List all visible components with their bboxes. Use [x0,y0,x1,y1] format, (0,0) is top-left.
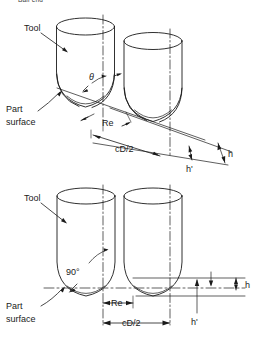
tool-right-back-arc-front [134,286,172,294]
part-surface-label-front-line1: Part [6,301,23,311]
h-inner-arrowhead-front [209,281,213,287]
angle90-arrowhead-front [104,248,109,251]
tool-right-wall-right [160,41,183,122]
re-arrowhead-right-front [126,301,133,305]
tool-right-body-front [124,196,182,296]
tool-left-body-front [57,196,115,296]
isometric-view [38,15,232,165]
tool-right-top-ellipse [124,33,182,50]
part-surface-label-iso-line1: Part [6,104,23,114]
tool-leader-iso [41,33,66,51]
tool-label-front: Tool [24,193,41,203]
tool-right-iso [124,33,182,123]
tool-right-top-ellipse-front [124,188,182,204]
re-label-iso: Re [102,118,114,128]
tool-leader-front [41,203,65,222]
h-arrowhead-bottom-iso [222,156,226,163]
front-view [41,185,245,325]
part-surface-leader-front [41,288,63,306]
tool-right-wall-left [124,41,147,121]
hprime-arrowhead-top-iso [189,146,193,153]
h-arrowhead-bottom-front [234,285,238,291]
re-arrowhead-right-iso [126,122,132,126]
part-surface-leader-iso [38,92,60,111]
re-label-front: Re [111,298,123,308]
cd2-arrowhead-left-iso [93,135,101,139]
tool-label-iso: Tool [24,23,41,33]
tool-leader-arrowhead-front [61,218,67,223]
part-surface-label-front-line2: surface [6,314,36,324]
tool-left-top-ellipse-front [57,188,115,204]
tool-leader-arrowhead-iso [62,47,68,52]
cd2-arrowhead-right-front [163,321,171,326]
tool-left-top-ellipse [57,18,115,35]
theta-arc-iso [92,76,106,83]
part-surface-leader-arrowhead-iso [57,91,62,97]
tool-left-iso [57,18,115,108]
cd2-label-front: cD/2 [122,318,141,328]
part-surface-plane-front-edge [57,88,205,140]
h-label-front: h [245,280,250,290]
re-arrowhead-left-front [103,301,110,305]
hprime-label-iso: h' [186,164,193,174]
ball-end-scallop-diagram: Tool Part surface θ Re cD/2 h h' Tool Pa… [0,0,263,342]
cd2-label-iso: cD/2 [115,144,134,154]
hprime-label-front: h' [191,317,198,327]
angle90-label-front: 90° [66,267,80,277]
angle90-arc-front [89,250,107,263]
theta-arrowhead-right-iso [102,75,106,78]
tool-right-front [124,188,182,296]
cd2-arrowhead-left-front [103,321,111,326]
theta-pointer-head-iso [117,74,123,77]
h-arrowhead-top-iso [218,143,222,150]
part-surface-plane-back-edge [93,143,228,165]
part-surface-label-iso-line2: surface [6,117,36,127]
hprime-arrowhead-top-front [195,279,199,286]
h-arrowhead-top-front [234,278,238,284]
tool-right-ball-back-arc [135,110,172,118]
tool-left-front [57,188,115,296]
theta-label-iso: θ [89,72,94,82]
h-label-iso: h [228,149,233,159]
